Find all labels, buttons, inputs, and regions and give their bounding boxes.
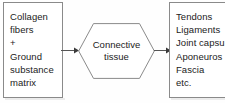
- tissue-types-line-1: Tendons: [176, 10, 225, 23]
- components-line-6: matrix: [10, 76, 60, 89]
- connective-tissue-label: Connective tissue: [78, 23, 155, 79]
- components-line-2: fibers: [10, 23, 60, 36]
- components-line-1: Collagen: [10, 10, 60, 23]
- tissue-types-line-4: Aponeuros: [176, 50, 225, 63]
- connective-tissue-diagram: Collagen fibers + Ground substance matri…: [0, 0, 225, 103]
- tissue-types-box: Tendons Ligaments Joint capsu Aponeuros …: [169, 2, 225, 98]
- tissue-types-line-2: Ligaments: [176, 23, 225, 36]
- connective-tissue-line-1: Connective: [93, 39, 141, 51]
- components-line-5: substance: [10, 63, 60, 76]
- tissue-types-text-block: Tendons Ligaments Joint capsu Aponeuros …: [176, 10, 225, 89]
- tissue-types-box-shadow: [171, 98, 225, 100]
- connective-tissue-line-2: tissue: [104, 51, 129, 63]
- components-box: Collagen fibers + Ground substance matri…: [3, 2, 63, 98]
- connective-tissue-node: Connective tissue: [78, 23, 155, 79]
- tissue-types-line-5: Fascia: [176, 63, 225, 76]
- components-text-block: Collagen fibers + Ground substance matri…: [10, 10, 60, 89]
- arrow-components-to-tissue: [61, 46, 79, 55]
- components-line-4: Ground: [10, 50, 60, 63]
- components-box-shadow: [5, 98, 65, 100]
- components-line-3: +: [10, 36, 60, 49]
- tissue-types-line-6: etc.: [176, 76, 225, 89]
- tissue-types-line-3: Joint capsu: [176, 36, 225, 49]
